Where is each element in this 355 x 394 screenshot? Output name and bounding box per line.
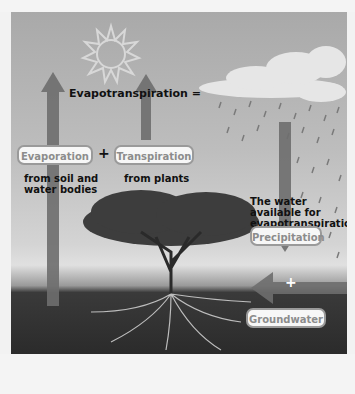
caption-line: from soil and	[24, 173, 98, 184]
roots	[91, 294, 251, 350]
header-strip	[0, 0, 355, 12]
heading-line: The water available for	[250, 196, 347, 218]
caption-transpiration: from plants	[124, 173, 189, 184]
tree	[71, 182, 271, 354]
footer-strip	[0, 354, 355, 394]
plus-right: +	[285, 274, 297, 290]
caption-evaporation: from soil and water bodies	[24, 173, 98, 195]
term-transpiration: Transpiration	[114, 145, 194, 165]
plus-left: +	[98, 145, 110, 161]
term-precipitation: Precipitation	[250, 226, 322, 246]
diagram-panel: Evapotranspiration = Evaporation + Trans…	[11, 12, 347, 354]
title: Evapotranspiration =	[69, 88, 201, 99]
term-groundwater: Groundwater	[246, 308, 326, 328]
term-evaporation: Evaporation	[17, 145, 93, 165]
caption-line: water bodies	[24, 184, 98, 195]
